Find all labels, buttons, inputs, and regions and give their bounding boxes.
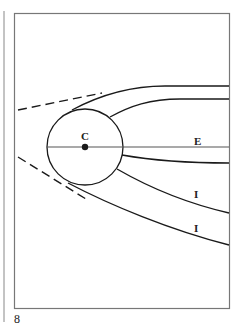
label-c: C [81, 131, 89, 142]
center-dot [82, 144, 88, 150]
figure-frame [15, 14, 230, 309]
page-number: 8 [14, 313, 20, 325]
inner-upper-line [110, 99, 229, 117]
outer-upper-line [72, 86, 229, 110]
label-i-lower: I [194, 223, 198, 234]
lower-line-I-upper [117, 169, 229, 213]
diagram [0, 0, 241, 330]
lower-line-I-lower [68, 183, 229, 245]
label-e: E [194, 136, 201, 147]
lower-line-1 [122, 155, 229, 163]
label-i-upper: I [194, 189, 198, 200]
page: C E I I 8 [0, 0, 241, 330]
dashed-lower-line [18, 157, 86, 199]
